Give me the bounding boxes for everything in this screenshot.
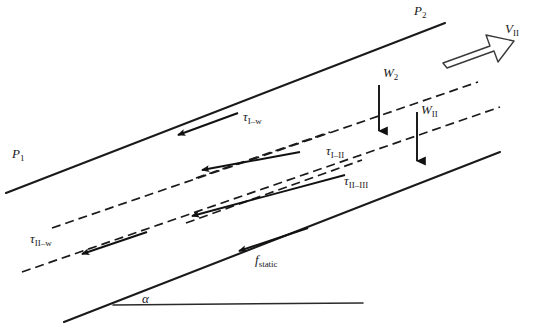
velocity-block-arrow: [443, 35, 514, 68]
label-weight-w2: W2: [383, 66, 398, 79]
label-velocity-v2: VII: [505, 22, 519, 35]
label-p1: P1: [12, 147, 24, 160]
diagram-canvas: [0, 0, 538, 329]
tau-ii-iii-arrow: [192, 175, 345, 216]
label-weight-w-ii: WII: [421, 103, 438, 116]
label-tau-i-ii: τI–II: [326, 144, 344, 157]
label-tau-ii-iii: τII–III: [344, 174, 368, 187]
tau-i-ii-arrow: [202, 152, 300, 170]
layer-fragment-upper-dashed: [196, 132, 330, 178]
label-tau-i-w: τI–w: [243, 110, 262, 123]
inclined-plane-free-body-diagram: P1 P2 VII W2 WII τI–w τI–II τII–III τII–…: [0, 0, 538, 329]
tau-ii-w-arrow: [82, 232, 147, 254]
label-p2: P2: [414, 4, 426, 17]
horizontal-baseline: [113, 303, 363, 305]
label-alpha-angle: α: [142, 292, 149, 305]
label-f-static: fstatic: [255, 253, 278, 266]
f-static-arrow: [239, 228, 308, 251]
layer-fragment-lower-dashed: [186, 160, 362, 223]
label-tau-ii-w: τII–w: [30, 232, 52, 245]
layer-interface-lower-dashed: [22, 107, 500, 272]
